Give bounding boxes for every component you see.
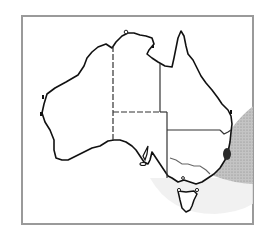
coast-marker — [124, 30, 128, 34]
map-figure — [0, 0, 268, 244]
kangaroo-island — [140, 163, 146, 166]
coast-marker — [42, 95, 44, 99]
occurrence-spot — [223, 148, 231, 160]
island-marker — [195, 188, 198, 191]
coast-marker — [230, 110, 232, 114]
australia-map — [0, 0, 268, 244]
island-marker — [177, 188, 180, 191]
coast-marker — [152, 45, 154, 48]
coast-marker — [40, 112, 43, 116]
island-marker — [182, 177, 185, 180]
